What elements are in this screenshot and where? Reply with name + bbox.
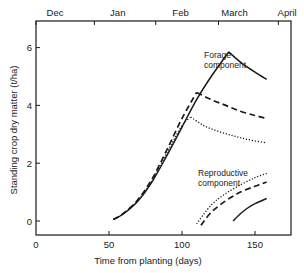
y-axis-label: Standing crop dry matter (t/ha) [8,66,19,195]
top-month-axis: DecJanFebMarchApril [36,7,297,25]
y-tick-label: 6 [27,42,32,53]
month-label: Dec [47,7,64,18]
month-label: April [278,7,297,18]
chart: DecJanFebMarchApril 050100150 0246 Forag… [0,0,304,273]
x-axis-label: Time from planting (days) [94,255,201,266]
month-label: Feb [172,7,188,18]
y-tick-label: 2 [27,158,32,169]
series-line-reproductive-solid [233,198,267,221]
month-label: Jan [110,7,125,18]
plot-border [36,21,291,235]
month-label: March [221,7,247,18]
y-axis: 0246 [27,42,40,226]
series-line-forage-dotted [191,117,267,143]
y-tick-label: 0 [27,216,32,227]
reproductive-component-label: Reproductivecomponent [198,168,248,188]
annotations: ForagecomponentReproductivecomponent [198,50,248,188]
series-line-forage-dashed [113,92,196,219]
series-line-forage-solid [113,52,228,220]
x-axis: 050100150 [33,231,263,250]
forage-component-label: Foragecomponent [204,50,247,70]
x-tick-label: 100 [174,239,190,250]
y-tick-label: 4 [27,100,32,111]
plot-frame [36,21,291,235]
x-tick-label: 0 [33,239,38,250]
series-line-forage-dashed [197,92,267,118]
x-tick-label: 50 [104,239,115,250]
series-lines [113,52,266,225]
x-tick-label: 150 [247,239,263,250]
